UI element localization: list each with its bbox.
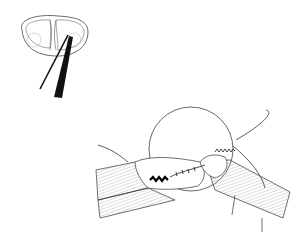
suture-thin: [215, 149, 235, 152]
surgical-illustration: [0, 0, 295, 239]
inset-cross-section: [22, 16, 88, 98]
magnified-view: [96, 107, 290, 232]
